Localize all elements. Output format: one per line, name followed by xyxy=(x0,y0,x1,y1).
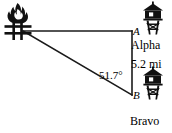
diagram-canvas: A Alpha 5.2 mi B Bravo 51.7° xyxy=(0,0,172,133)
lookout-tower-icon-alpha xyxy=(140,1,166,35)
station-name-alpha: Alpha xyxy=(131,39,160,51)
edge-fire-to-bravo xyxy=(23,31,132,95)
vertex-label-a: A xyxy=(133,26,140,37)
angle-label-bravo: 51.7° xyxy=(99,70,123,81)
campfire-icon xyxy=(2,1,34,41)
lookout-tower-icon-glyph xyxy=(140,1,166,35)
lookout-tower-icon-glyph xyxy=(140,66,166,100)
campfire-icon-glyph xyxy=(2,1,34,41)
vertex-label-b: B xyxy=(133,90,140,101)
lookout-tower-icon-bravo xyxy=(140,66,166,100)
distance-label-ab: 5.2 mi xyxy=(131,58,162,70)
station-name-bravo: Bravo xyxy=(130,115,159,127)
